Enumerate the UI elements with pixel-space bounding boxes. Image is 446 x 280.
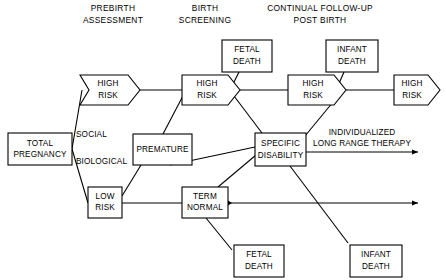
node-infant-death-top[interactable]: INFANT DEATH [326, 40, 378, 72]
header-followup-line1: CONTINUAL FOLLOW-UP [267, 3, 373, 13]
arrowhead-into-term-normal [228, 201, 232, 206]
node-fetal-death-bottom[interactable]: FETAL DEATH [234, 245, 284, 277]
node-term-normal-line1: TERM [193, 192, 217, 201]
node-high-risk-2[interactable]: HIGH RISK [182, 75, 240, 105]
node-specific-disability[interactable]: SPECIFIC DISABILITY [255, 133, 306, 166]
node-term-normal-line2: NORMAL [187, 203, 223, 212]
header-prebirth: PREBIRTH ASSESSMENT [83, 3, 143, 25]
node-infant-death-top-line1: INFANT [337, 45, 367, 54]
connector-term-normal-to-specific-disability [218, 155, 256, 187]
node-high-risk-1[interactable]: HIGH RISK [80, 75, 140, 105]
edge-label-biological: BIOLOGICAL [76, 157, 127, 166]
node-total-pregnancy[interactable]: TOTAL PREGNANCY [8, 133, 72, 165]
node-low-risk-line2: RISK [95, 203, 115, 212]
node-premature-label: PREMATURE [136, 145, 189, 154]
outcome-label-line2: LONG RANGE THERAPY [313, 139, 411, 148]
node-specific-disability-line1: SPECIFIC [261, 139, 300, 148]
node-infant-death-bottom[interactable]: INFANT DEATH [350, 245, 402, 277]
node-high-risk-4-line1: HIGH [401, 79, 422, 88]
node-high-risk-2-line2: RISK [197, 91, 217, 100]
header-birth-line1: BIRTH [192, 3, 218, 13]
node-specific-disability-line2: DISABILITY [258, 151, 304, 160]
connector-term-normal-to-fetal-death-bottom [206, 218, 232, 250]
node-low-risk[interactable]: LOW RISK [88, 187, 122, 218]
node-high-risk-4[interactable]: HIGH RISK [394, 75, 440, 105]
node-total-pregnancy-line2: PREGNANCY [13, 150, 67, 159]
node-infant-death-top-line2: DEATH [338, 57, 366, 66]
flow-diagram-canvas: PREBIRTH ASSESSMENT BIRTH SCREENING CONT… [0, 0, 446, 280]
header-followup: CONTINUAL FOLLOW-UP POST BIRTH [267, 3, 373, 25]
header-prebirth-line1: PREBIRTH [91, 3, 136, 13]
node-term-normal[interactable]: TERM NORMAL [182, 187, 228, 218]
node-premature[interactable]: PREMATURE [133, 134, 192, 165]
node-low-risk-line1: LOW [95, 192, 114, 201]
flow-diagram-svg: PREBIRTH ASSESSMENT BIRTH SCREENING CONT… [0, 0, 446, 280]
node-high-risk-1-line1: HIGH [97, 79, 118, 88]
connector-high-risk-2-to-specific-disability [234, 96, 262, 133]
node-high-risk-3-line1: HIGH [302, 79, 323, 88]
connector-total-to-high-risk-1 [72, 90, 82, 149]
connector-specific-disability-to-infant-death-bottom [290, 166, 348, 243]
node-infant-death-bottom-line1: INFANT [361, 250, 391, 259]
node-fetal-death-bottom-line2: DEATH [245, 262, 273, 271]
outcome-label-line1: INDIVIDUALIZED [329, 128, 396, 137]
node-high-risk-1-line2: RISK [98, 91, 118, 100]
header-birth-line2: SCREENING [179, 15, 232, 25]
node-fetal-death-bottom-line1: FETAL [246, 250, 272, 259]
node-fetal-death-top[interactable]: FETAL DEATH [222, 40, 272, 72]
edge-label-social: SOCIAL [76, 130, 107, 139]
node-fetal-death-top-line1: FETAL [234, 45, 260, 54]
node-high-risk-3[interactable]: HIGH RISK [288, 75, 346, 105]
node-fetal-death-top-line2: DEATH [233, 57, 261, 66]
connector-low-risk-to-premature [122, 165, 141, 196]
node-high-risk-2-line1: HIGH [196, 79, 217, 88]
header-prebirth-line2: ASSESSMENT [83, 15, 143, 25]
header-followup-line2: POST BIRTH [294, 15, 347, 25]
node-total-pregnancy-line1: TOTAL [27, 139, 54, 148]
node-high-risk-4-line2: RISK [402, 91, 422, 100]
header-birth: BIRTH SCREENING [179, 3, 232, 25]
node-infant-death-bottom-line2: DEATH [362, 262, 390, 271]
node-high-risk-3-line2: RISK [303, 91, 323, 100]
